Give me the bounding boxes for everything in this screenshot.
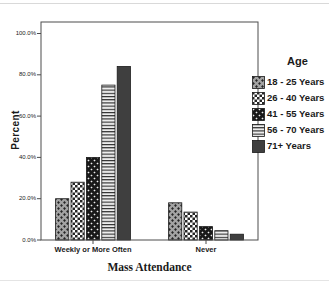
bar-category0-series0 (56, 199, 69, 240)
y-tick-label: 100.0% (0, 30, 36, 37)
bar-category0-series2 (86, 157, 99, 240)
bar-category1-series3 (215, 231, 228, 240)
y-tick-label: 20.0% (0, 195, 36, 202)
y-tick-label: 40.0% (0, 154, 36, 161)
legend-item: 71+ Years (252, 140, 329, 153)
y-axis-title: Percent (10, 110, 21, 150)
spss-bar-chart-figure: 0.0%20.0%40.0%60.0%80.0%100.0% Weekly or… (0, 0, 329, 283)
legend-items: 18 - 25 Years26 - 40 Years41 - 55 Years5… (252, 76, 329, 153)
legend-item-label: 71+ Years (267, 140, 311, 151)
legend-swatch (252, 92, 265, 105)
x-axis-title: Mass Attendance (41, 261, 258, 273)
legend-item-label: 18 - 25 Years (267, 76, 324, 87)
x-category-label: Weekly or More Often (28, 245, 158, 254)
x-category-label: Never (141, 245, 271, 254)
legend-item: 26 - 40 Years (252, 92, 329, 105)
legend-item-label: 26 - 40 Years (267, 92, 324, 103)
legend-item: 41 - 55 Years (252, 108, 329, 121)
legend-item: 56 - 70 Years (252, 124, 329, 137)
legend-swatch (252, 140, 265, 153)
legend-swatch (252, 124, 265, 137)
bar-category0-series1 (71, 182, 84, 240)
bar-category1-series1 (184, 212, 197, 240)
legend-item: 18 - 25 Years (252, 76, 329, 89)
legend-item-label: 41 - 55 Years (267, 108, 324, 119)
bar-category1-series4 (230, 234, 243, 240)
legend-swatch (252, 108, 265, 121)
bar-category0-series4 (117, 67, 130, 241)
legend: Age 18 - 25 Years26 - 40 Years41 - 55 Ye… (252, 55, 329, 156)
legend-title: Age (252, 55, 329, 67)
y-tick-label: 0.0% (0, 237, 36, 244)
bar-category0-series3 (102, 85, 115, 240)
bar-category1-series2 (199, 227, 212, 240)
bar-category1-series0 (169, 203, 182, 240)
legend-swatch (252, 76, 265, 89)
legend-item-label: 56 - 70 Years (267, 124, 324, 135)
y-tick-label: 80.0% (0, 71, 36, 78)
bars-layer (56, 67, 244, 241)
